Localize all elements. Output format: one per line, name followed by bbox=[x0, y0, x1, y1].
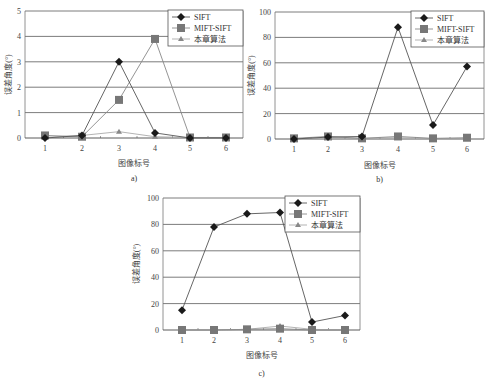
y-tick-label: 60 bbox=[263, 59, 271, 68]
x-tick-label: 1 bbox=[43, 144, 47, 153]
triangle-marker bbox=[116, 129, 122, 134]
square-marker bbox=[394, 132, 402, 140]
x-tick-label: 4 bbox=[278, 336, 282, 345]
y-tick-label: 5 bbox=[17, 7, 21, 16]
legend-label: SIFT bbox=[437, 14, 454, 23]
y-axis-label: 误差角度(°) bbox=[246, 55, 256, 96]
figure-charts: 012345123456图像标号误差角度(°)a)SIFTMIFT-SIFT本章… bbox=[0, 0, 491, 383]
y-tick-label: 60 bbox=[151, 247, 159, 256]
x-tick-label: 6 bbox=[224, 144, 228, 153]
legend-label: 本章算法 bbox=[311, 220, 343, 230]
chart-a: 012345123456图像标号误差角度(°)a)SIFTMIFT-SIFT本章… bbox=[3, 7, 243, 183]
y-tick-label: 20 bbox=[151, 300, 159, 309]
legend: SIFTMIFT-SIFT本章算法 bbox=[285, 196, 360, 232]
legend: SIFTMIFT-SIFT本章算法 bbox=[168, 10, 243, 46]
legend-label: SIFT bbox=[311, 199, 328, 208]
series-line bbox=[45, 39, 226, 138]
y-axis-label: 误差角度(°) bbox=[131, 243, 141, 284]
x-tick-label: 2 bbox=[326, 145, 330, 154]
x-tick-label: 1 bbox=[292, 145, 296, 154]
x-axis-label: 图像标号 bbox=[118, 158, 150, 168]
diamond-marker bbox=[276, 209, 284, 217]
diamond-marker bbox=[308, 318, 316, 326]
y-tick-label: 80 bbox=[151, 220, 159, 229]
diamond-marker bbox=[429, 121, 437, 129]
legend-label: MIFT-SIFT bbox=[437, 25, 475, 34]
diamond-marker bbox=[243, 210, 251, 218]
square-marker bbox=[276, 325, 284, 333]
x-tick-label: 5 bbox=[310, 336, 314, 345]
square-marker bbox=[463, 134, 471, 142]
x-tick-label: 4 bbox=[153, 144, 157, 153]
y-tick-label: 40 bbox=[151, 273, 159, 282]
y-tick-label: 20 bbox=[263, 110, 271, 119]
square-marker bbox=[429, 134, 437, 142]
x-tick-label: 1 bbox=[180, 336, 184, 345]
legend-label: 本章算法 bbox=[194, 34, 226, 44]
x-axis-label: 图像标号 bbox=[246, 350, 278, 360]
square-marker bbox=[151, 35, 159, 43]
diamond-marker bbox=[178, 306, 186, 314]
legend-label: 本章算法 bbox=[437, 35, 469, 45]
square-marker bbox=[177, 24, 185, 32]
square-marker bbox=[243, 325, 251, 333]
square-marker bbox=[420, 25, 428, 33]
chart-caption: c) bbox=[258, 369, 265, 378]
x-tick-label: 6 bbox=[343, 336, 347, 345]
x-tick-label: 2 bbox=[212, 336, 216, 345]
chart-caption: a) bbox=[131, 174, 138, 183]
x-tick-label: 5 bbox=[188, 144, 192, 153]
diamond-marker bbox=[463, 63, 471, 71]
series-line bbox=[45, 62, 226, 138]
chart-caption: b) bbox=[376, 175, 383, 184]
x-tick-label: 5 bbox=[431, 145, 435, 154]
legend-label: MIFT-SIFT bbox=[311, 210, 349, 219]
y-tick-label: 100 bbox=[259, 8, 271, 17]
y-tick-label: 0 bbox=[155, 326, 159, 335]
y-tick-label: 80 bbox=[263, 33, 271, 42]
legend-label: MIFT-SIFT bbox=[194, 24, 232, 33]
square-marker bbox=[341, 326, 349, 334]
square-marker bbox=[294, 210, 302, 218]
chart-c: 020406080100123456图像标号误差角度(°)c)SIFTMIFT-… bbox=[131, 194, 360, 378]
diamond-marker bbox=[341, 311, 349, 319]
x-tick-label: 3 bbox=[117, 144, 121, 153]
x-tick-label: 3 bbox=[360, 145, 364, 154]
square-marker bbox=[308, 326, 316, 334]
x-tick-label: 2 bbox=[80, 144, 84, 153]
x-tick-label: 4 bbox=[396, 145, 400, 154]
y-tick-label: 4 bbox=[17, 32, 21, 41]
y-tick-label: 1 bbox=[17, 109, 21, 118]
y-tick-label: 3 bbox=[17, 58, 21, 67]
y-axis-label: 误差角度(°) bbox=[3, 54, 13, 95]
chart-b: 020406080100123456图像标号误差角度(°)b)SIFTMIFT-… bbox=[246, 8, 484, 184]
diamond-marker bbox=[151, 129, 159, 137]
y-tick-label: 40 bbox=[263, 84, 271, 93]
x-tick-label: 3 bbox=[245, 336, 249, 345]
y-tick-label: 0 bbox=[17, 134, 21, 143]
x-axis-label: 图像标号 bbox=[364, 160, 396, 170]
square-marker bbox=[115, 96, 123, 104]
diamond-marker bbox=[394, 23, 402, 31]
square-marker bbox=[178, 326, 186, 334]
y-tick-label: 100 bbox=[147, 194, 159, 203]
square-marker bbox=[210, 326, 218, 334]
y-tick-label: 2 bbox=[17, 83, 21, 92]
x-tick-label: 6 bbox=[465, 145, 469, 154]
legend: SIFTMIFT-SIFT本章算法 bbox=[411, 11, 484, 47]
legend-label: SIFT bbox=[194, 13, 211, 22]
y-tick-label: 0 bbox=[267, 135, 271, 144]
diamond-marker bbox=[115, 58, 123, 66]
